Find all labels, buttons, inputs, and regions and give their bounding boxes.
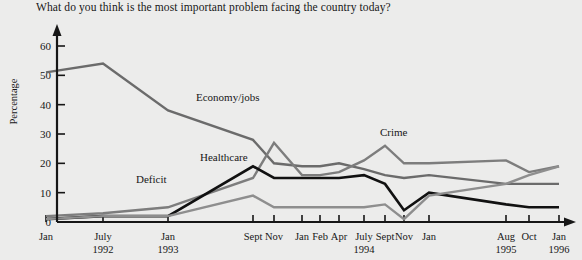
x-tick-year-label: 1995 [496,244,517,255]
x-tick-label: July [355,231,373,242]
x-tick-label: July [94,231,112,242]
y-axis-arrow-icon [53,24,62,36]
series-lines [46,64,559,220]
x-tick-label: Jan [295,231,310,242]
x-tick-label: Sept [244,231,263,242]
x-tick-year-label: 1994 [354,244,376,255]
series-line-crime [46,143,559,216]
x-tick-year-label: 1992 [93,244,114,255]
series-line-economy-jobs [46,64,559,184]
x-tick-label: Oct [521,231,536,242]
y-tick-label: 20 [40,157,52,169]
plot-area: 0102030405060 JanJuly1992Jan1993SeptNovJ… [0,0,582,260]
x-tick-label: Aug [497,231,516,242]
x-tick-year-label: 1996 [549,244,570,255]
series-label-healthcare: Healthcare [200,151,248,163]
y-axis-ticks: 0102030405060 [40,40,65,228]
y-tick-label: 30 [40,128,52,140]
x-tick-label: Nov [395,231,414,242]
x-tick-label: Jan [422,231,437,242]
x-tick-label: Jan [161,231,176,242]
x-tick-year-label: 1993 [158,244,179,255]
x-axis-arrow-icon [564,218,576,227]
series-label-crime: Crime [380,126,408,138]
x-tick-label: Apr [331,231,348,242]
x-tick-label: Feb [312,231,328,242]
x-tick-label: Jan [39,231,54,242]
x-tick-label: Jan [552,231,567,242]
chart-container: What do you think is the most important … [0,0,582,260]
y-tick-label: 60 [40,40,52,52]
y-tick-label: 40 [40,99,52,111]
x-tick-label: Sept [376,231,395,242]
y-tick-label: 10 [40,187,52,199]
series-label-economy-jobs: Economy/jobs [196,91,260,103]
x-tick-label: Nov [265,231,284,242]
series-label-deficit: Deficit [136,173,167,185]
